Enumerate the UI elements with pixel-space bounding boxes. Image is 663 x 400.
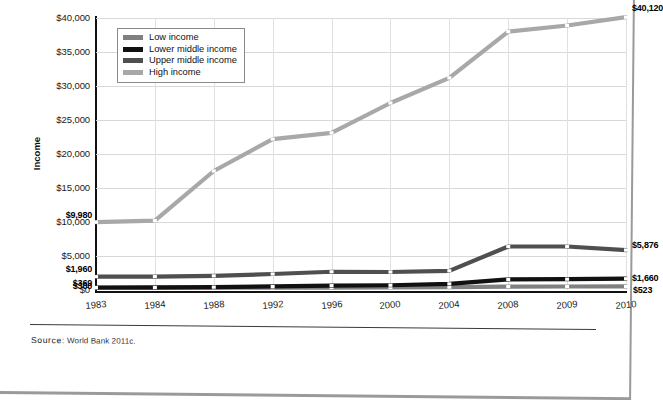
y-tick-label: $35,000	[20, 46, 90, 57]
x-tick-label: 2004	[432, 298, 467, 312]
x-tick-label: 2008	[491, 298, 526, 312]
y-tick-label: $30,000	[20, 80, 90, 91]
legend-item: Upper middle income	[123, 55, 237, 67]
data-point-marker	[94, 275, 98, 278]
legend-item: Low income	[123, 32, 237, 44]
data-point-marker	[447, 282, 451, 285]
data-point-marker	[506, 285, 510, 288]
data-point-label: $40,120	[632, 3, 663, 13]
data-point-marker	[153, 275, 157, 278]
y-tick-label: $40,000	[20, 12, 90, 23]
data-point-marker	[212, 286, 216, 289]
x-tick-label: 1988	[196, 298, 231, 312]
source-value: World Bank 2011c.	[67, 336, 136, 345]
data-point-label: $9,980	[66, 210, 92, 220]
x-axis-line	[95, 291, 627, 293]
data-point-marker	[506, 245, 510, 248]
data-point-marker	[447, 269, 451, 272]
data-point-marker	[506, 278, 510, 281]
data-point-marker	[447, 76, 451, 79]
y-axis-title-box: Income	[28, 118, 44, 198]
legend-label: High income	[149, 67, 201, 79]
data-point-marker	[153, 286, 157, 289]
x-tick-label: 2009	[550, 298, 585, 312]
x-tick-label: 2000	[373, 298, 408, 312]
data-point-marker	[94, 286, 98, 289]
data-point-marker	[212, 274, 216, 277]
legend-swatch-icon	[123, 35, 143, 40]
plot-area: $0$5,000$10,000$15,000$20,000$25,000$30,…	[0, 0, 645, 318]
data-point-marker	[565, 24, 569, 27]
data-point-label: $300	[73, 281, 92, 291]
data-point-marker	[330, 270, 334, 273]
x-tick-label: 1983	[79, 298, 114, 312]
data-point-marker	[212, 169, 216, 172]
data-point-marker	[388, 270, 392, 273]
data-point-marker	[565, 285, 569, 288]
x-tick-label: 2010	[609, 298, 644, 312]
data-point-label: $5,876	[632, 240, 658, 250]
data-point-marker	[94, 221, 98, 224]
legend-label: Upper middle income	[149, 55, 237, 67]
data-point-marker	[624, 285, 628, 288]
data-point-marker	[447, 286, 451, 289]
y-tick-label: $5,000	[20, 250, 90, 261]
data-point-label: $523	[632, 285, 653, 295]
data-point-marker	[271, 285, 275, 288]
legend-item: Lower middle income	[123, 44, 237, 56]
data-point-marker	[624, 248, 628, 251]
series-line	[96, 246, 626, 276]
data-point-marker	[624, 277, 628, 280]
x-tick-label: 1984	[137, 298, 172, 312]
data-point-label: $1,660	[632, 273, 658, 283]
legend-item: High income	[123, 67, 237, 79]
y-axis-title: Income	[31, 114, 42, 194]
source-note: Source: World Bank 2011c.	[31, 335, 136, 346]
data-point-marker	[330, 131, 334, 134]
data-point-marker	[388, 284, 392, 287]
data-point-marker	[271, 137, 275, 140]
chart-legend: Low incomeLower middle incomeUpper middl…	[117, 28, 245, 83]
data-point-marker	[565, 245, 569, 248]
x-tick-label: 1992	[255, 298, 290, 312]
data-point-marker	[271, 272, 275, 275]
legend-swatch-icon	[123, 70, 143, 75]
data-point-marker	[388, 101, 392, 104]
data-point-marker	[565, 278, 569, 281]
source-label: Source:	[31, 335, 65, 345]
data-point-marker	[330, 284, 334, 287]
data-point-marker	[624, 16, 628, 19]
legend-label: Lower middle income	[149, 44, 237, 56]
data-point-marker	[506, 30, 510, 33]
data-point-marker	[153, 219, 157, 222]
legend-swatch-icon	[123, 58, 143, 63]
source-divider	[30, 324, 596, 330]
legend-label: Low income	[149, 32, 199, 44]
legend-swatch-icon	[123, 47, 143, 52]
data-point-label: $1,960	[66, 264, 92, 274]
x-tick-label: 1996	[314, 298, 349, 312]
